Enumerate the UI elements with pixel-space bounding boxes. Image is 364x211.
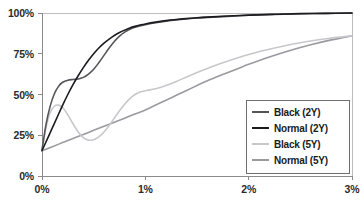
y-tick-marks <box>38 13 42 176</box>
legend-line-swatch-icon <box>252 159 269 161</box>
x-tick-label: 3% <box>332 183 364 195</box>
y-tick-label: 100% <box>0 7 34 19</box>
legend-item[interactable]: Normal (2Y) <box>251 120 345 136</box>
legend-item-label: Black (2Y) <box>274 107 320 118</box>
legend-line-swatch-icon <box>252 143 269 145</box>
y-tick-label: 75% <box>0 48 34 60</box>
legend-item-label: Black (5Y) <box>274 139 320 150</box>
y-tick-label: 0% <box>0 170 34 182</box>
x-tick-label: 0% <box>22 183 62 195</box>
legend-item-label: Normal (5Y) <box>274 155 328 166</box>
legend-line-swatch-icon <box>252 111 269 113</box>
y-tick-label: 50% <box>0 89 34 101</box>
legend-item-label: Normal (2Y) <box>274 123 328 134</box>
legend-item[interactable]: Normal (5Y) <box>251 152 345 168</box>
y-tick-label: 25% <box>0 129 34 141</box>
x-tick-label: 1% <box>125 183 165 195</box>
legend-item[interactable]: Black (5Y) <box>251 136 345 152</box>
legend-item[interactable]: Black (2Y) <box>251 104 345 120</box>
chart-legend: Black (2Y)Normal (2Y)Black (5Y)Normal (5… <box>246 100 350 174</box>
legend-line-swatch-icon <box>252 127 269 129</box>
x-tick-label: 2% <box>229 183 269 195</box>
x-tick-marks <box>42 176 352 180</box>
